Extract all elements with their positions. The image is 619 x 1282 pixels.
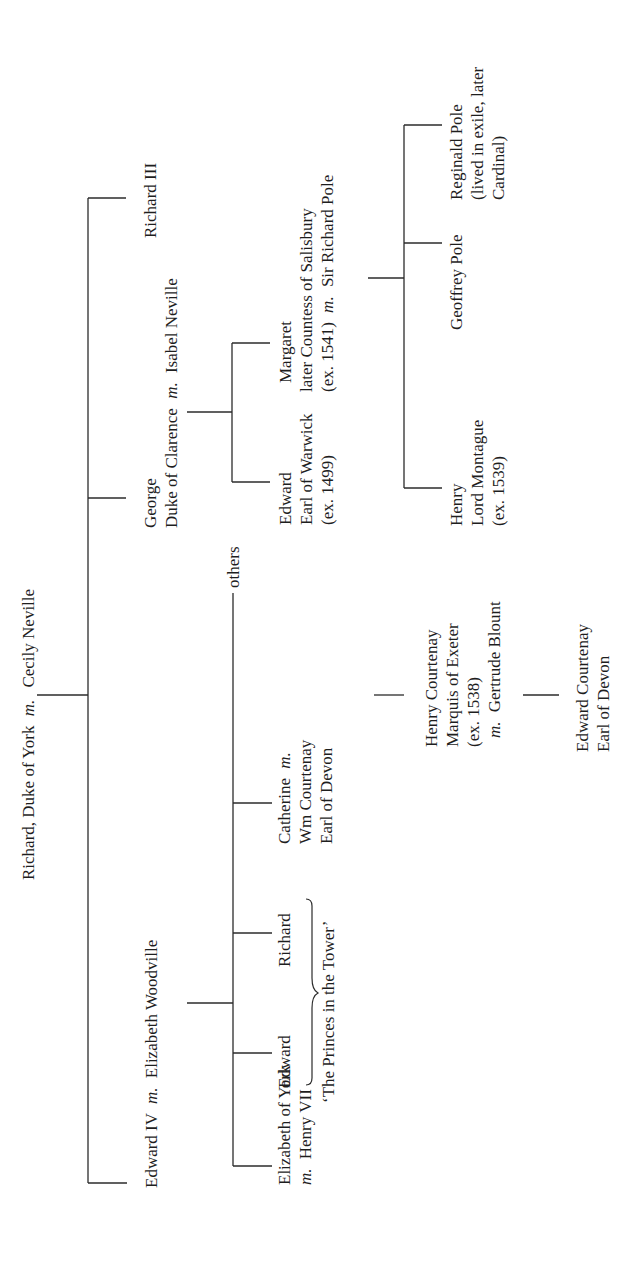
person-edward-warwick-title: Earl of Warwick (297, 413, 316, 525)
person-henry-courtenay: Henry Courtenay (422, 629, 441, 747)
person-edward-iv: Edward IV m. Elizabeth Woodville (142, 940, 161, 1188)
person-catherine-spouse: Wm Courtenay (296, 739, 315, 844)
root-couple: Richard, Duke of York m. Cecily Neville (19, 589, 38, 880)
person-geoffrey-pole: Geoffrey Pole (447, 234, 466, 330)
person-margaret-spouse: (ex. 1541) m. Sir Richard Pole (318, 175, 337, 392)
person-henry-courtenay-title: Marquis of Exeter (443, 623, 462, 747)
person-edward-warwick: Edward (276, 472, 295, 525)
person-edward-courtenay-title: Earl of Devon (594, 655, 613, 752)
person-catherine-spouse-title: Earl of Devon (317, 747, 336, 844)
person-henry-montague: Henry (447, 483, 466, 526)
person-margaret-title: later Countess of Salisbury (297, 208, 316, 392)
label-others: others (224, 546, 243, 588)
person-reginald-pole-note-cont: Cardinal) (489, 136, 508, 200)
person-edward-courtenay: Edward Courtenay (573, 624, 592, 752)
person-edward-warwick-execution: (ex. 1499) (318, 455, 337, 525)
person-henry-montague-title: Lord Montague (468, 420, 487, 526)
marriage-marker: m. (19, 700, 38, 717)
person-henry-courtenay-execution: (ex. 1538) (464, 677, 483, 747)
person-catherine: Catherine m. (275, 752, 294, 844)
person-elizabeth-spouse: m. Henry VII (296, 1089, 315, 1185)
person-george: George (141, 478, 160, 528)
person-reginald-pole-note: (lived in exile, later (468, 67, 487, 200)
family-tree-diagram: Richard, Duke of York m. Cecily Neville … (0, 0, 619, 1282)
person-margaret: Margaret (276, 321, 295, 383)
princes-brace (306, 899, 318, 1085)
person-george-title: Duke of Clarence m. Isabel Neville (162, 278, 181, 528)
root-name: Richard, Duke of York (19, 725, 38, 880)
person-edward-prince: Edward (275, 1035, 294, 1088)
princes-in-the-tower-label: ‘The Princes in the Tower’ (319, 921, 338, 1103)
person-henry-courtenay-spouse: m. Gertrude Blount (485, 601, 504, 738)
person-henry-montague-execution: (ex. 1539) (489, 456, 508, 526)
person-richard-iii: Richard III (141, 163, 160, 238)
root-spouse: Cecily Neville (19, 589, 38, 688)
person-reginald-pole: Reginald Pole (447, 104, 466, 200)
person-richard-prince: Richard (275, 913, 294, 967)
